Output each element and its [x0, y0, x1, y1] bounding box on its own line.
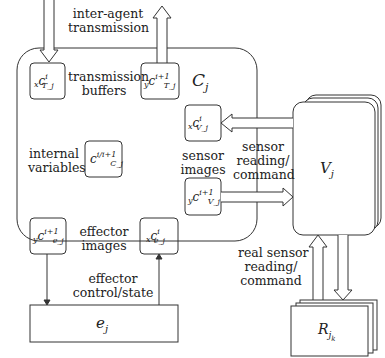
label-line: real sensor — [238, 246, 304, 260]
cell-x-c-ej-text: xcie_j — [146, 229, 165, 244]
cell-sub: V_j — [196, 123, 208, 132]
cell-sup: i+1 — [199, 188, 213, 197]
agent-label-base: C — [192, 70, 205, 90]
cell-sub: e_j — [154, 236, 165, 245]
label-sensor-reading: sensor reading/ command — [233, 140, 293, 182]
effector-label-base: e — [96, 314, 105, 332]
cell-sub: C_j — [110, 159, 123, 168]
label-line: reading/ — [233, 154, 293, 168]
cell-y-c-Vj-text: yci+1V_j — [188, 190, 220, 205]
cell-sup: i — [45, 72, 48, 81]
real-sensor-label: Rjk — [318, 321, 336, 337]
label-line: internal — [28, 147, 80, 161]
cell-sub: e_j — [53, 236, 64, 245]
cell-c-Cj-text: ci/i+1C_j — [90, 152, 123, 166]
label-real-sensor-reading: real sensor reading/ command — [238, 246, 304, 288]
label-line: transmission — [68, 21, 148, 35]
sensor-label-base: V — [320, 159, 331, 177]
label-internal-variables: internal variables — [28, 147, 80, 175]
label-line: inter-agent — [68, 7, 148, 21]
cell-sub: T_j — [164, 81, 176, 90]
agent-label: Cj — [192, 70, 208, 90]
label-line: transmission — [68, 70, 140, 84]
cell-sup: i — [157, 227, 160, 236]
label-line: command — [238, 274, 304, 288]
sensor-stack-front — [293, 102, 375, 235]
label-line: images — [180, 163, 226, 177]
cell-x-c-Tj-text: xciT_j — [34, 74, 54, 89]
agent-label-sub: j — [205, 81, 208, 94]
cell-sub: T_j — [42, 81, 54, 90]
cell-sup: i — [199, 114, 202, 123]
label-line: sensor — [233, 140, 293, 154]
label-line: effector — [72, 225, 136, 239]
label-line: effector — [68, 272, 158, 286]
sensor-stack-label: Vj — [320, 159, 334, 177]
cell-y-c-ej-text: yci+1e_j — [33, 229, 64, 244]
real-sensor-label-subsub: k — [331, 335, 335, 343]
label-line: images — [72, 239, 136, 253]
cell-y-c-Tj-text: yci+1T_j — [144, 74, 175, 89]
label-line: command — [233, 168, 293, 182]
cell-sup: i+1 — [44, 227, 58, 236]
real-sensor-arrow-up — [309, 235, 327, 300]
label-line: buffers — [68, 84, 140, 98]
inbound-transmission-arrow — [40, 0, 58, 62]
label-line: sensor — [180, 149, 226, 163]
label-effector-control: effector control/state — [68, 272, 158, 300]
label-line: variables — [28, 161, 80, 175]
label-inter-agent: inter-agent transmission — [68, 7, 148, 35]
label-line: control/state — [68, 286, 158, 300]
cell-sup: i+1 — [155, 72, 169, 81]
effector-box-label: ej — [96, 314, 108, 332]
cell-sup: i/i+1 — [97, 150, 117, 159]
effector-label-sub: j — [105, 323, 108, 334]
label-sensor-images: sensor images — [180, 149, 226, 177]
real-sensor-label-base: R — [318, 321, 329, 337]
label-transmission-buffers: transmission buffers — [68, 70, 140, 98]
label-effector-images: effector images — [72, 225, 136, 253]
label-line: reading/ — [238, 260, 304, 274]
cell-sub: V_j — [208, 197, 220, 206]
real-command-arrow-down — [334, 235, 352, 300]
cell-x-c-Vj-text: xciV_j — [188, 116, 208, 131]
diagram-canvas — [0, 0, 385, 358]
cell-base: c — [90, 152, 97, 166]
sensor-label-sub: j — [331, 168, 334, 179]
